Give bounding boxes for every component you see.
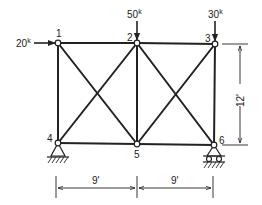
load-unit-2: k: [138, 8, 142, 15]
node-label-2: 2: [127, 32, 133, 43]
node-label-5: 5: [134, 149, 140, 160]
roller-support-node-6: [203, 145, 225, 168]
node-label-3: 3: [205, 33, 211, 44]
svg-text:50k: 50k: [127, 8, 142, 20]
truss-diagram: 1 2 3 4 5 6 20k 50k 30k 12' 9' 9': [0, 0, 262, 205]
svg-text:20k: 20k: [16, 37, 31, 49]
truss-members: [58, 43, 215, 145]
node-6: [211, 142, 217, 148]
node-1: [55, 40, 61, 46]
load-unit-3: k: [219, 8, 223, 15]
node-5: [134, 141, 140, 147]
node-4: [55, 140, 61, 146]
span-left-label: 9': [92, 175, 100, 186]
member-2-3: [137, 43, 215, 44]
svg-text:30k: 30k: [208, 8, 223, 20]
member-3-6: [214, 44, 215, 145]
load-value-1: 20: [16, 38, 28, 49]
member-4-5: [58, 143, 137, 144]
member-5-6: [137, 144, 214, 145]
node-label-4: 4: [47, 133, 53, 144]
load-unit-1: k: [27, 37, 31, 44]
load-value-2: 50: [127, 9, 139, 20]
node-2: [134, 40, 140, 46]
load-node-1: 20k: [16, 37, 55, 49]
span-right-label: 9': [171, 175, 179, 186]
node-3: [212, 41, 218, 47]
node-label-1: 1: [56, 28, 62, 39]
span-dimension: [56, 176, 213, 198]
load-value-3: 30: [208, 9, 220, 20]
node-label-6: 6: [219, 135, 225, 146]
height-dimension-label: 12': [235, 94, 246, 107]
